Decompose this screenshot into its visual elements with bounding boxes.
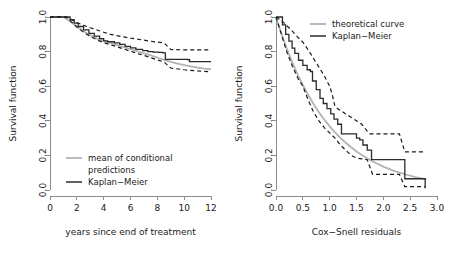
x-axis-tick-label: 0.0	[269, 203, 284, 213]
x-axis-tick-label: 1.5	[349, 203, 363, 213]
plot-area-right: 0.00.20.40.60.81.00.00.51.01.52.02.53.0C…	[234, 10, 444, 237]
x-axis-tick-label: 2.0	[376, 203, 391, 213]
x-axis-tick-label: 8	[154, 203, 160, 213]
plot-area-left: 0.00.20.40.60.81.0024681012years since e…	[8, 10, 217, 237]
y-axis-tick-label: 0.2	[38, 148, 48, 162]
data-series-kaplan-meier	[50, 17, 211, 62]
x-axis-tick-label: 4	[101, 203, 107, 213]
x-axis-tick-label: 10	[178, 203, 190, 213]
x-axis-tick-label: 2	[74, 203, 80, 213]
figure-container: 0.00.20.40.60.81.0024681012years since e…	[0, 0, 452, 257]
data-series-lower-confidence-limit	[276, 17, 425, 187]
y-axis-tick-label: 0.6	[264, 79, 274, 94]
y-axis-title: Survival function	[234, 66, 244, 142]
x-axis-tick-label: 0.5	[296, 203, 310, 213]
y-axis-tick-label: 1.0	[38, 10, 48, 25]
legend-label: theoretical curve	[332, 19, 404, 29]
y-axis-tick-label: 0.4	[38, 113, 48, 128]
x-axis-tick-label: 0	[47, 203, 53, 213]
y-axis-tick-label: 0.0	[38, 183, 48, 198]
y-axis-tick-label: 0.2	[264, 148, 274, 162]
x-axis-title: years since end of treatment	[65, 227, 196, 237]
y-axis-tick-label: 1.0	[264, 10, 274, 25]
chart-panel-right: 0.00.20.40.60.81.00.00.51.01.52.02.53.0C…	[226, 0, 452, 257]
y-axis-tick-label: 0.8	[38, 44, 48, 59]
survival-plot-left: 0.00.20.40.60.81.0024681012years since e…	[0, 0, 226, 257]
data-series-theoretical-curve	[276, 17, 426, 179]
y-axis-tick-label: 0.4	[264, 113, 274, 128]
x-axis-title: Cox−Snell residuals	[312, 227, 402, 237]
chart-panel-left: 0.00.20.40.60.81.0024681012years since e…	[0, 0, 226, 257]
x-axis-tick-label: 2.5	[403, 203, 417, 213]
x-axis-tick-label: 6	[128, 203, 134, 213]
legend-label: Kaplan−Meier	[88, 177, 148, 187]
survival-plot-right: 0.00.20.40.60.81.00.00.51.01.52.02.53.0C…	[226, 0, 452, 257]
legend-label: mean of conditional	[88, 153, 173, 163]
legend-label-continued: predictions	[88, 165, 136, 175]
y-axis-title: Survival function	[8, 66, 18, 142]
y-axis-tick-label: 0.0	[264, 183, 274, 198]
y-axis-tick-label: 0.6	[38, 79, 48, 94]
data-series-kaplan-meier	[276, 17, 425, 188]
x-axis-tick-label: 1.0	[323, 203, 338, 213]
legend-label: Kaplan−Meier	[332, 31, 392, 41]
y-axis-tick-label: 0.8	[264, 44, 274, 59]
x-axis-tick-label: 3.0	[430, 203, 445, 213]
data-series-mean-of-conditional-predictions	[50, 17, 211, 69]
x-axis-tick-label: 12	[205, 203, 216, 213]
